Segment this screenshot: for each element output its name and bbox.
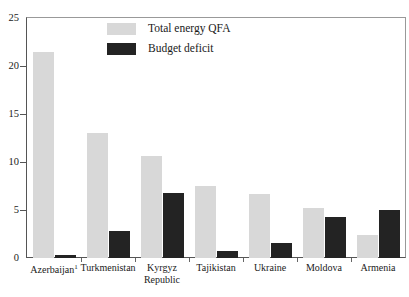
bar-budget-deficit [217, 251, 238, 258]
bar-total-energy-qfa [87, 133, 108, 258]
x-axis-label: Tajikistan [196, 262, 235, 274]
x-axis-label-line: Azerbaijan [30, 264, 74, 275]
footnote-marker: 1 [74, 263, 78, 271]
x-axis-label-line: Kyrgyz [147, 262, 177, 273]
y-tick-label: 10 [9, 157, 20, 168]
x-axis-label: KyrgyzRepublic [134, 262, 190, 285]
x-axis-label: Ukraine [254, 262, 286, 274]
x-axis-label: Moldova [306, 262, 342, 274]
x-axis-label: Turkmenistan [80, 262, 135, 274]
y-tick-label: 5 [14, 205, 19, 216]
y-axis: 0510152025 [0, 0, 24, 297]
x-axis-label-line: Moldova [306, 262, 342, 273]
y-tick-label: 25 [9, 13, 20, 24]
bar-total-energy-qfa [195, 186, 216, 258]
bar-budget-deficit [109, 231, 130, 258]
x-axis-label-line: Tajikistan [196, 262, 235, 273]
legend-swatch-budget-deficit [107, 43, 136, 55]
legend-item-budget-deficit: Budget deficit [107, 40, 287, 57]
legend-label-budget-deficit: Budget deficit [148, 43, 213, 55]
chart-legend: Total energy QFA Budget deficit [107, 20, 287, 60]
y-tick-label: 15 [9, 109, 20, 120]
bar-total-energy-qfa [357, 235, 378, 258]
x-axis-label: Azerbaijan1 [30, 262, 77, 276]
legend-swatch-total-energy-qfa [107, 23, 136, 35]
x-axis-labels: Azerbaijan1TurkmenistanKyrgyzRepublicTaj… [0, 262, 409, 297]
bar-total-energy-qfa [33, 52, 54, 258]
legend-item-total-energy-qfa: Total energy QFA [107, 20, 287, 37]
legend-label-total-energy-qfa: Total energy QFA [148, 23, 230, 35]
bar-budget-deficit [163, 193, 184, 258]
x-axis-label-line: Ukraine [254, 262, 286, 273]
x-axis-label-line: Armenia [361, 262, 396, 273]
bar-total-energy-qfa [249, 194, 270, 258]
bar-budget-deficit [271, 243, 292, 258]
bar-chart: 0510152025 Azerbaijan1TurkmenistanKyrgyz… [0, 0, 409, 297]
y-tick-label: 20 [9, 61, 20, 72]
bar-total-energy-qfa [141, 156, 162, 258]
x-axis-label-line: Republic [144, 274, 180, 285]
bar-total-energy-qfa [303, 208, 324, 258]
bar-group [33, 18, 76, 258]
bar-group [303, 18, 346, 258]
x-axis-label-line: Turkmenistan [80, 262, 135, 273]
bar-group [357, 18, 400, 258]
bar-budget-deficit [325, 217, 346, 258]
bar-budget-deficit [379, 210, 400, 258]
x-axis-label: Armenia [361, 262, 396, 274]
